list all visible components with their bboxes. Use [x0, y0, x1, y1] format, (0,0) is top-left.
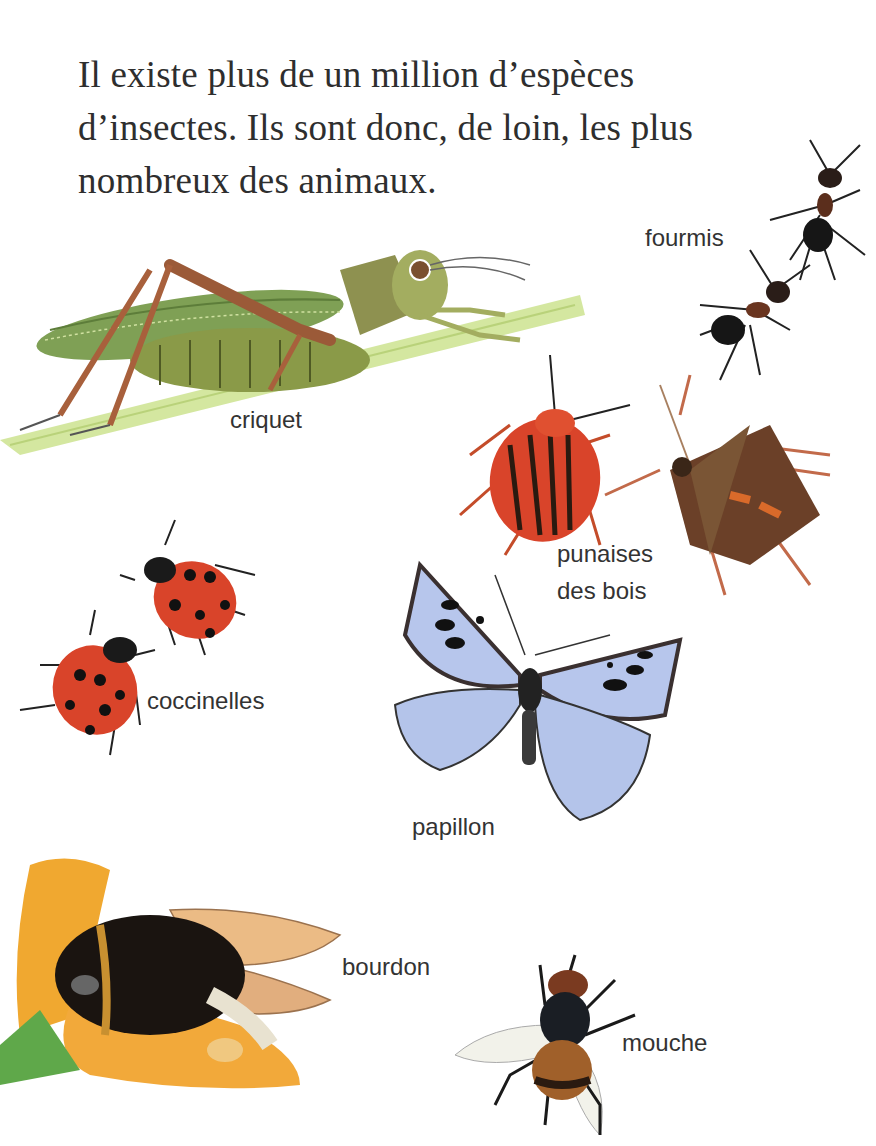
- label-criquet: criquet: [230, 406, 302, 434]
- butterfly-illustration: [380, 555, 700, 825]
- label-fourmis: fourmis: [645, 224, 724, 252]
- label-mouche: mouche: [622, 1029, 707, 1057]
- label-papillon: papillon: [412, 813, 495, 841]
- intro-line-1: Il existe plus de un million d’espèces: [78, 48, 778, 101]
- ants-illustration: [660, 130, 870, 390]
- bumblebee-illustration: [0, 855, 350, 1095]
- label-coccinelles: coccinelles: [147, 687, 264, 715]
- fly-illustration: [450, 935, 650, 1145]
- ladybirds-illustration: [15, 515, 265, 765]
- label-bourdon: bourdon: [342, 953, 430, 981]
